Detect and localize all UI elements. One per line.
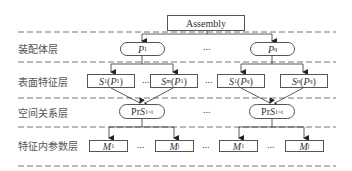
var: M xyxy=(169,141,177,152)
surface-ellipsis-middle: ... xyxy=(205,74,213,85)
param-ellipsis-1: ... xyxy=(137,139,145,150)
param-node-mj-left: Mj xyxy=(155,140,194,152)
sub: 1~i xyxy=(145,109,153,115)
layer-label-assembly: 装配体层 xyxy=(18,41,58,56)
surface-node-s1-pq: S1(Pq) xyxy=(217,74,265,88)
surface-node-s1-p1: S1(P1) xyxy=(87,74,135,88)
part-sub: q xyxy=(274,46,277,52)
prefix: Pr xyxy=(131,106,140,117)
hierarchy-diagram: 装配体层 表面特征层 空间关系层 特征内参数层 Assembly P1 ... … xyxy=(0,0,352,171)
fn-sub: 1 xyxy=(234,78,237,84)
spatial-ellipsis: ... xyxy=(203,104,211,115)
part-node-pq: Pq xyxy=(250,42,295,56)
arg-sub: 1 xyxy=(117,78,120,84)
var: M xyxy=(299,141,307,152)
sub: 1 xyxy=(241,143,244,149)
param-node-mj-right: Mj xyxy=(285,140,324,152)
surface-ellipsis-left: ... xyxy=(142,74,150,85)
fn-sub: 1 xyxy=(104,78,107,84)
surface-node-sn-pq: Sn(Pq) xyxy=(280,74,328,88)
arg-sub: 1 xyxy=(180,78,183,84)
param-ellipsis-3: ... xyxy=(267,139,275,150)
param-node-m1-right: M1 xyxy=(219,140,258,152)
part-sub: 1 xyxy=(144,46,147,52)
param-ellipsis-2: ... xyxy=(202,139,210,150)
param-node-m1-left: M1 xyxy=(89,140,128,152)
surface-node-sm-p1: Sm(P1) xyxy=(150,74,198,88)
fn-sub: n xyxy=(297,78,300,84)
layer-label-spatial-relation: 空间关系层 xyxy=(18,105,68,120)
arg-sub: q xyxy=(247,78,250,84)
spatial-node-left: PrS1~i xyxy=(119,104,165,119)
assembly-ellipsis: ... xyxy=(203,41,211,52)
var: M xyxy=(103,141,111,152)
sub: 1~i xyxy=(275,109,283,115)
part-node-p1: P1 xyxy=(120,42,165,56)
arg-sub: q xyxy=(310,78,313,84)
assembly-node: Assembly xyxy=(167,15,245,31)
fn-sub: m xyxy=(166,78,171,84)
sub: 1 xyxy=(111,143,114,149)
layer-label-internal-parameter: 特征内参数层 xyxy=(18,138,78,153)
spatial-node-right: PrS1~i xyxy=(249,104,295,119)
var: M xyxy=(233,141,241,152)
layer-label-surface-feature: 表面特征层 xyxy=(18,74,68,89)
assembly-label: Assembly xyxy=(186,18,226,29)
prefix: Pr xyxy=(261,106,270,117)
sub: j xyxy=(308,143,310,149)
sub: j xyxy=(178,143,180,149)
